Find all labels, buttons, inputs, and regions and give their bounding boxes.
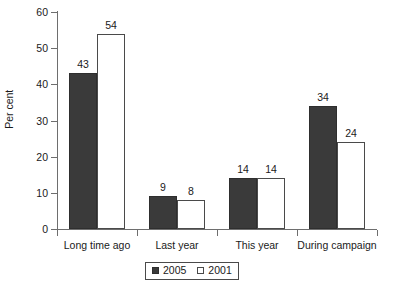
x-axis-tick (377, 230, 378, 236)
bar-value-label: 54 (91, 20, 131, 31)
y-axis-tick-label: 0 (22, 224, 48, 235)
y-axis-tick (51, 12, 57, 13)
y-axis-tick-label: 30 (22, 116, 48, 127)
y-axis-tick (51, 48, 57, 49)
bar-value-label: 24 (331, 128, 371, 139)
y-axis-title: Per cent (4, 79, 15, 139)
bar-2001-2 (177, 200, 205, 229)
x-axis-tick (217, 230, 218, 236)
x-axis-tick (137, 230, 138, 236)
x-axis-category-label: Last year (131, 239, 223, 251)
y-axis-tick (51, 193, 57, 194)
x-axis-tick (57, 230, 58, 236)
y-axis-tick-label: 20 (22, 152, 48, 163)
y-axis-tick-label: 60 (22, 7, 48, 18)
legend-entry-2001: 2001 (197, 265, 231, 276)
y-axis-tick-label: 10 (22, 188, 48, 199)
bar-2001-3 (257, 178, 285, 229)
bar-2005-1 (69, 73, 97, 229)
legend-entry-2005: 2005 (152, 265, 186, 276)
y-axis-tick (51, 121, 57, 122)
legend-swatch-2005-icon (152, 267, 159, 274)
bar-2005-4 (309, 106, 337, 229)
x-axis-category-label: This year (211, 239, 303, 251)
bar-value-label: 8 (171, 186, 211, 197)
legend-swatch-2001-icon (197, 267, 204, 274)
y-axis-tick (51, 157, 57, 158)
x-axis-category-label: Long time ago (51, 239, 143, 251)
y-axis-line (57, 11, 58, 230)
legend-label-2005: 2005 (163, 265, 186, 276)
legend-label-2001: 2001 (208, 265, 231, 276)
bar-2001-4 (337, 142, 365, 229)
bar-2001-1 (97, 34, 125, 229)
y-axis-tick-label: 50 (22, 43, 48, 54)
bar-chart: Per cent 0102030405060 43549814143424 Lo… (0, 0, 397, 295)
x-axis-tick (297, 230, 298, 236)
bar-2005-2 (149, 196, 177, 229)
bar-value-label: 34 (303, 92, 343, 103)
y-axis-tick (51, 84, 57, 85)
chart-legend: 2005 2001 (145, 262, 239, 280)
bar-2005-3 (229, 178, 257, 229)
bar-value-label: 14 (251, 164, 291, 175)
y-axis-tick-label: 40 (22, 79, 48, 90)
x-axis-category-label: During campaign (291, 239, 383, 251)
